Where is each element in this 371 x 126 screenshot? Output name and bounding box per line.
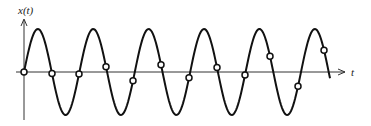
sample-point-marker <box>130 78 136 84</box>
sample-point-marker <box>242 72 248 78</box>
sample-point-marker <box>295 83 301 89</box>
sample-points <box>21 47 327 89</box>
sample-point-marker <box>186 75 192 81</box>
sample-point-marker <box>49 70 55 76</box>
sample-point-marker <box>214 65 220 71</box>
sample-point-marker <box>76 71 82 77</box>
sample-point-marker <box>158 62 164 68</box>
sample-point-marker <box>267 53 273 59</box>
sample-point-marker <box>321 47 327 53</box>
y-axis-label: x(t) <box>17 4 34 17</box>
sample-point-marker <box>103 64 109 70</box>
sampled-signal-diagram: x(t) t <box>0 0 371 126</box>
x-axis-label: t <box>351 66 355 78</box>
sample-point-marker <box>21 69 27 75</box>
